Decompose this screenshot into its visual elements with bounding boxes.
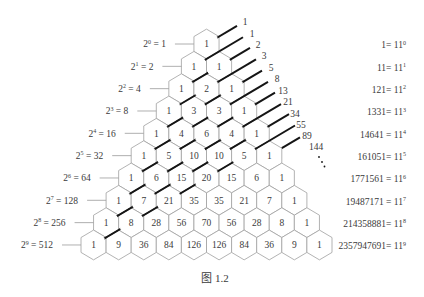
power-of-two-label: 27 = 128 bbox=[46, 195, 78, 206]
label-equals: = bbox=[29, 240, 39, 250]
label-base: 11 bbox=[394, 152, 403, 162]
label-exponent: 8 bbox=[403, 218, 406, 224]
label-equals: = bbox=[386, 63, 394, 73]
label-equals: = bbox=[41, 218, 51, 228]
label-equals: = bbox=[386, 241, 394, 251]
continuation-dot bbox=[321, 161, 323, 163]
pascal-number: 36 bbox=[139, 240, 149, 250]
pascal-number: 1 bbox=[192, 62, 197, 72]
label-equals: = bbox=[126, 84, 136, 94]
label-value: 128 bbox=[64, 196, 79, 206]
pascal-triangle-diagram: 1111211331146411510105116152015611721353… bbox=[0, 0, 424, 297]
label-exponent: 4 bbox=[403, 129, 406, 135]
label-base: 11 bbox=[394, 241, 403, 251]
power-of-eleven-label: 19487171 = 117 bbox=[346, 196, 406, 207]
label-value: 2 bbox=[149, 62, 154, 72]
label-value: 4 bbox=[136, 84, 141, 94]
fibonacci-number: 3 bbox=[262, 51, 267, 61]
pascal-number: 1 bbox=[179, 84, 184, 94]
label-exponent: 7 bbox=[403, 196, 406, 202]
pascal-number: 1 bbox=[279, 173, 284, 183]
power-of-two-label: 29 = 512 bbox=[21, 240, 53, 251]
pascal-number: 6 bbox=[204, 129, 209, 139]
power-of-eleven-label: 121= 112 bbox=[372, 84, 406, 95]
fibonacci-number: 34 bbox=[290, 109, 300, 119]
label-equals: = bbox=[96, 129, 106, 139]
label-equals: = bbox=[139, 62, 149, 72]
pascal-number: 126 bbox=[212, 240, 227, 250]
fibonacci-number: 1 bbox=[243, 17, 248, 27]
pascal-number: 84 bbox=[239, 240, 249, 250]
pascal-number: 5 bbox=[166, 151, 171, 161]
pascal-number: 5 bbox=[242, 151, 247, 161]
label-exponent: 3 bbox=[403, 107, 406, 113]
pascal-number: 15 bbox=[177, 173, 187, 183]
fibonacci-number: 1 bbox=[250, 29, 255, 39]
label-value: 256 bbox=[51, 218, 66, 228]
label-value: 19487171 bbox=[346, 197, 384, 207]
pascal-number: 6 bbox=[154, 173, 159, 183]
power-of-eleven-label: 214358881= 118 bbox=[343, 218, 406, 229]
label-equals: = bbox=[386, 152, 394, 162]
pascal-number: 28 bbox=[252, 218, 262, 228]
power-of-eleven-label: 161051= 115 bbox=[358, 151, 406, 162]
power-of-eleven-label: 1771561 = 116 bbox=[350, 174, 406, 185]
power-of-two-label: 26 = 64 bbox=[63, 173, 91, 184]
fibonacci-number: 89 bbox=[302, 131, 312, 141]
label-equals: = bbox=[151, 39, 161, 49]
label-equals: = bbox=[386, 219, 394, 229]
label-base: 11 bbox=[394, 63, 403, 73]
label-exponent: 6 bbox=[403, 174, 406, 180]
pascal-number: 4 bbox=[179, 129, 184, 139]
label-value: 2357947691 bbox=[339, 241, 387, 251]
pascal-number: 70 bbox=[202, 218, 212, 228]
label-base: 11 bbox=[394, 174, 403, 184]
pascal-number: 1 bbox=[116, 196, 121, 206]
label-equals: = bbox=[384, 130, 394, 140]
fibonacci-number: 21 bbox=[283, 97, 293, 107]
label-exponent: 2 bbox=[403, 84, 406, 90]
label-value: 8 bbox=[124, 106, 129, 116]
power-of-eleven-label: 2357947691= 119 bbox=[339, 241, 406, 252]
power-of-two-label: 20 = 1 bbox=[143, 39, 166, 50]
fibonacci-number: 5 bbox=[269, 63, 274, 73]
power-of-two-label: 21 = 2 bbox=[131, 61, 154, 72]
pascal-triangle-figure: 1111211331146411510105116152015611721353… bbox=[0, 0, 424, 297]
label-value: 16 bbox=[106, 129, 116, 139]
label-equals: = bbox=[386, 107, 394, 117]
label-exponent: 0 bbox=[403, 40, 406, 46]
pascal-number: 1 bbox=[242, 106, 247, 116]
label-value: 14641 bbox=[360, 130, 384, 140]
label-base: 11 bbox=[394, 85, 403, 95]
power-of-eleven-label: 14641 = 114 bbox=[360, 129, 406, 140]
pascal-number: 1 bbox=[204, 39, 209, 49]
pascal-number: 20 bbox=[202, 173, 212, 183]
pascal-number: 56 bbox=[177, 218, 187, 228]
pascal-number: 56 bbox=[227, 218, 237, 228]
pascal-number: 1 bbox=[229, 84, 234, 94]
pascal-number: 3 bbox=[192, 106, 197, 116]
pascal-number: 1 bbox=[129, 173, 134, 183]
pascal-number: 1 bbox=[317, 240, 322, 250]
pascal-number: 1 bbox=[305, 218, 310, 228]
label-equals: = bbox=[386, 85, 394, 95]
pascal-number: 6 bbox=[254, 173, 259, 183]
power-of-two-label: 28 = 256 bbox=[33, 217, 65, 228]
label-value: 1771561 bbox=[350, 174, 384, 184]
label-exponent: 5 bbox=[403, 151, 406, 157]
label-value: 32 bbox=[94, 151, 104, 161]
pascal-number: 126 bbox=[187, 240, 202, 250]
powers-of-eleven-labels: 1= 11011= 111121= 1121331= 11314641 = 11… bbox=[339, 40, 406, 251]
fibonacci-number: 8 bbox=[275, 74, 280, 84]
label-value: 11 bbox=[377, 63, 386, 73]
pascal-number: 1 bbox=[254, 129, 259, 139]
pascal-number: 10 bbox=[189, 151, 199, 161]
fibonacci-number: 55 bbox=[296, 120, 306, 130]
pascal-number: 1 bbox=[104, 218, 109, 228]
pascal-number: 4 bbox=[229, 129, 234, 139]
pascal-number: 84 bbox=[164, 240, 174, 250]
power-of-eleven-label: 1= 110 bbox=[381, 40, 406, 51]
label-value: 64 bbox=[81, 173, 91, 183]
pascal-number: 9 bbox=[116, 240, 121, 250]
pascal-number: 7 bbox=[141, 196, 146, 206]
